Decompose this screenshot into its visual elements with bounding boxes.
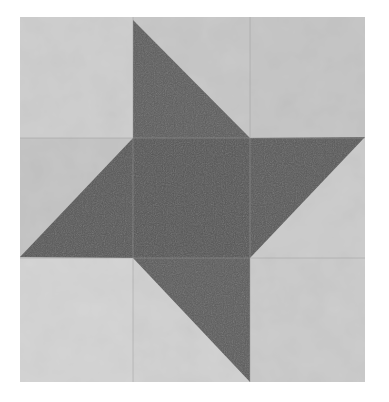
center-square (133, 138, 250, 258)
patch-top-right (250, 17, 365, 138)
patch-bottom-right (250, 258, 365, 382)
quilt-block-photo (0, 0, 389, 402)
quilt-block-svg (0, 0, 389, 402)
patch-top-left (20, 17, 133, 138)
patch-bottom-left (20, 258, 133, 382)
